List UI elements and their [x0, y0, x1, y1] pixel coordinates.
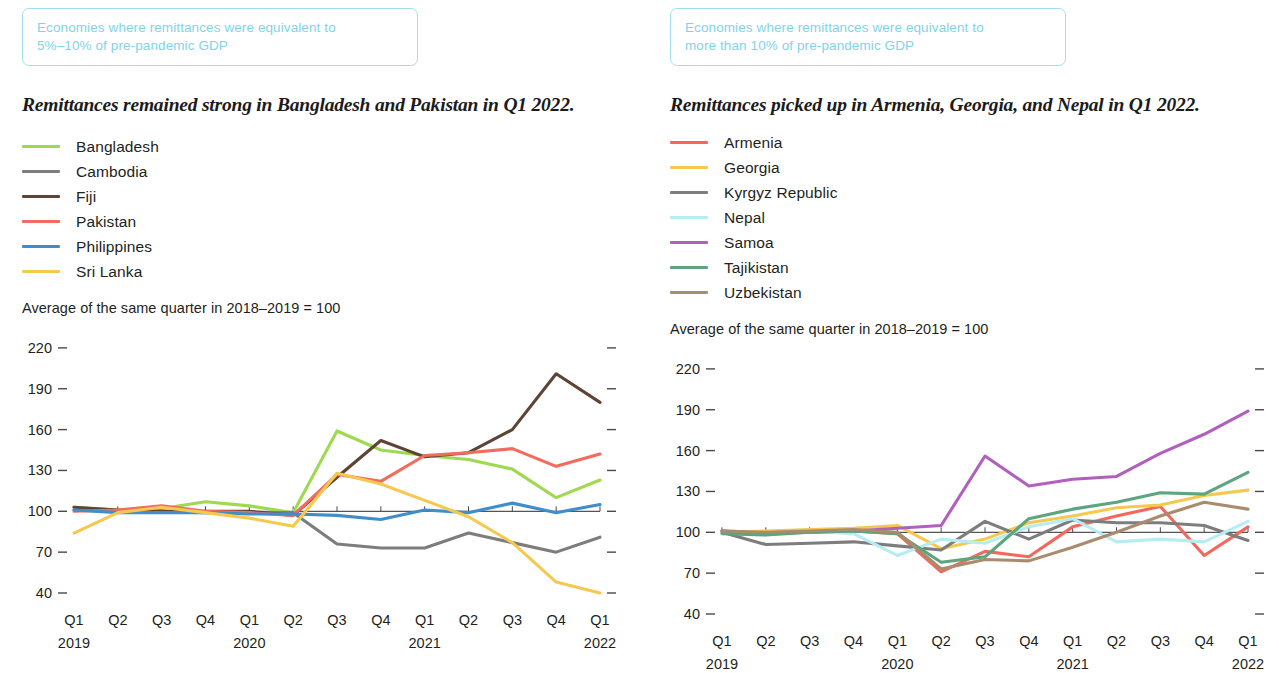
legend-item-armenia[interactable]: Armenia [670, 130, 1278, 155]
category-pill-left-line2: 5%–10% of pre-pandemic GDP [37, 37, 404, 55]
legend-item-sri-lanka[interactable]: Sri Lanka [22, 259, 639, 284]
legend-item-uzbekistan[interactable]: Uzbekistan [670, 280, 1278, 305]
legend-swatch-icon [22, 270, 60, 273]
y-axis-tick-label: 190 [676, 402, 700, 418]
headline-right: Remittances picked up in Armenia, Georgi… [670, 94, 1278, 116]
x-axis-quarter-label: Q4 [196, 612, 215, 628]
x-axis-year-label: 2022 [584, 635, 616, 651]
legend-item-samoa[interactable]: Samoa [670, 230, 1278, 255]
y-axis-tick-label: 100 [28, 503, 52, 519]
legend-item-fiji[interactable]: Fiji [22, 184, 639, 209]
x-axis-left: Q12019Q2Q3Q4Q12020Q2Q3Q4Q12021Q2Q3Q4Q120… [22, 607, 622, 659]
x-axis-quarter-label: Q1 [240, 612, 259, 628]
category-pill-right-line1: Economies where remittances were equival… [685, 20, 984, 35]
legend-label: Cambodia [76, 163, 147, 181]
x-axis-year-label: 2020 [881, 656, 913, 672]
x-axis-quarter-label: Q2 [756, 633, 775, 649]
legend-item-bangladesh[interactable]: Bangladesh [22, 134, 639, 159]
legend-label: Philippines [76, 238, 152, 256]
x-axis-quarter-label: Q4 [546, 612, 565, 628]
legend-label: Bangladesh [76, 138, 159, 156]
x-axis-quarter-label: Q4 [1194, 633, 1213, 649]
legend-swatch-icon [22, 245, 60, 248]
series-line-fiji [74, 374, 600, 516]
legend-swatch-icon [670, 291, 708, 294]
x-axis-year-label: 2019 [706, 656, 738, 672]
x-axis-quarter-label: Q3 [327, 612, 346, 628]
index-note-right: Average of the same quarter in 2018–2019… [670, 321, 1278, 337]
index-note-left: Average of the same quarter in 2018–2019… [22, 300, 639, 316]
legend-swatch-icon [670, 241, 708, 244]
x-axis-right: Q12019Q2Q3Q4Q12020Q2Q3Q4Q12021Q2Q3Q4Q120… [670, 628, 1270, 673]
legend-swatch-icon [22, 195, 60, 198]
legend-swatch-icon [22, 220, 60, 223]
legend-right: ArmeniaGeorgiaKyrgyz RepublicNepalSamoaT… [670, 130, 1278, 305]
x-axis-quarter-label: Q4 [371, 612, 390, 628]
x-axis-quarter-label: Q3 [975, 633, 994, 649]
y-axis-tick-label: 70 [36, 544, 52, 560]
chart-left: 2201901601301007040 [22, 327, 622, 607]
x-axis-quarter-label: Q1 [1238, 633, 1257, 649]
legend-label: Armenia [724, 134, 782, 152]
legend-swatch-icon [22, 170, 60, 173]
x-axis-year-label: 2019 [58, 635, 90, 651]
x-axis-quarter-label: Q2 [459, 612, 478, 628]
legend-item-kyrgyz-republic[interactable]: Kyrgyz Republic [670, 180, 1278, 205]
category-pill-left-line1: Economies where remittances were equival… [37, 20, 336, 35]
series-line-kyrgyz-republic [722, 520, 1248, 550]
x-axis-year-label: 2020 [233, 635, 265, 651]
legend-label: Sri Lanka [76, 263, 142, 281]
x-axis-quarter-label: Q2 [108, 612, 127, 628]
legend-swatch-icon [670, 216, 708, 219]
x-axis-year-label: 2021 [1057, 656, 1089, 672]
y-axis-tick-label: 160 [28, 422, 52, 438]
y-axis-tick-label: 100 [676, 524, 700, 540]
legend-label: Nepal [724, 209, 765, 227]
y-axis-tick-label: 220 [676, 361, 700, 377]
x-axis-year-label: 2022 [1232, 656, 1264, 672]
legend-item-tajikistan[interactable]: Tajikistan [670, 255, 1278, 280]
x-axis-quarter-label: Q3 [1151, 633, 1170, 649]
y-axis-tick-label: 40 [684, 606, 700, 622]
legend-item-georgia[interactable]: Georgia [670, 155, 1278, 180]
y-axis-tick-label: 70 [684, 565, 700, 581]
legend-label: Samoa [724, 234, 774, 252]
series-line-uzbekistan [722, 502, 1248, 569]
category-pill-right: Economies where remittances were equival… [670, 8, 1066, 66]
legend-swatch-icon [670, 166, 708, 169]
y-axis-tick-label: 190 [28, 381, 52, 397]
x-axis-quarter-label: Q3 [152, 612, 171, 628]
x-axis-quarter-label: Q4 [1019, 633, 1038, 649]
legend-item-pakistan[interactable]: Pakistan [22, 209, 639, 234]
x-axis-right-svg: Q12019Q2Q3Q4Q12020Q2Q3Q4Q12021Q2Q3Q4Q120… [670, 628, 1270, 673]
chart-right-svg: 2201901601301007040 [670, 348, 1270, 628]
x-axis-quarter-label: Q3 [503, 612, 522, 628]
x-axis-left-svg: Q12019Q2Q3Q4Q12020Q2Q3Q4Q12021Q2Q3Q4Q120… [22, 607, 622, 659]
headline-left: Remittances remained strong in Banglades… [22, 94, 639, 116]
x-axis-quarter-label: Q1 [888, 633, 907, 649]
x-axis-quarter-label: Q2 [931, 633, 950, 649]
x-axis-quarter-label: Q1 [712, 633, 731, 649]
x-axis-quarter-label: Q3 [800, 633, 819, 649]
x-axis-quarter-label: Q1 [64, 612, 83, 628]
legend-item-cambodia[interactable]: Cambodia [22, 159, 639, 184]
legend-item-philippines[interactable]: Philippines [22, 234, 639, 259]
x-axis-quarter-label: Q1 [415, 612, 434, 628]
x-axis-quarter-label: Q2 [1107, 633, 1126, 649]
legend-label: Uzbekistan [724, 284, 802, 302]
legend-item-nepal[interactable]: Nepal [670, 205, 1278, 230]
legend-label: Pakistan [76, 213, 136, 231]
series-line-sri-lanka [74, 473, 600, 593]
legend-label: Georgia [724, 159, 780, 177]
legend-left: BangladeshCambodiaFijiPakistanPhilippine… [22, 134, 639, 284]
category-pill-left: Economies where remittances were equival… [22, 8, 418, 66]
legend-swatch-icon [670, 191, 708, 194]
y-axis-tick-label: 130 [28, 462, 52, 478]
category-pill-right-line2: more than 10% of pre-pandemic GDP [685, 37, 1052, 55]
x-axis-quarter-label: Q4 [844, 633, 863, 649]
x-axis-year-label: 2021 [409, 635, 441, 651]
legend-swatch-icon [22, 145, 60, 148]
y-axis-tick-label: 220 [28, 340, 52, 356]
y-axis-tick-label: 130 [676, 483, 700, 499]
